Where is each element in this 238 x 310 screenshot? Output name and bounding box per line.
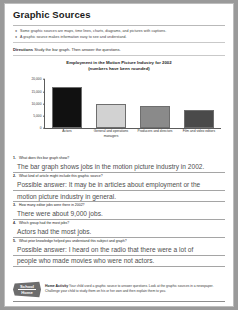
bar-column bbox=[136, 79, 175, 128]
bullet-list: ● Some graphic sources are maps, time li… bbox=[15, 28, 225, 40]
home-activity-body: Your child used a graphic source to answ… bbox=[45, 284, 213, 293]
x-tick-label: Film and video editors bbox=[180, 129, 219, 133]
chart-plot-area: 20,00015,00010,0005,0000 ActorsGeneral a… bbox=[13, 75, 225, 153]
answer-line[interactable]: motion picture industry in general. bbox=[13, 192, 225, 203]
answer-line[interactable]: Possible answer: It may be in articles a… bbox=[13, 180, 225, 191]
home-activity-label: Home Activity bbox=[45, 284, 68, 288]
chart-bar bbox=[96, 104, 126, 129]
school-home-logo-icon: School Home bbox=[13, 281, 41, 298]
question-text: What does this bar graph show? bbox=[19, 156, 225, 161]
bar-chart: Employment in the Motion Picture Industr… bbox=[13, 60, 225, 153]
question-block: 4.Which group had the most jobs?Actors h… bbox=[13, 221, 225, 238]
bullet-text: A graphic source makes information easy … bbox=[20, 34, 127, 40]
directions-divider bbox=[13, 55, 225, 56]
answer-line[interactable]: people who made movies who were not acto… bbox=[13, 256, 225, 267]
question-prompt: 5.What prior knowledge helped you unders… bbox=[13, 239, 225, 244]
chart-subtitle: (numbers have been rounded) bbox=[13, 66, 225, 72]
x-tick-label: General and operations managers bbox=[92, 129, 131, 137]
question-prompt: 3.How many editor jobs were there in 200… bbox=[13, 203, 225, 208]
chart-bar bbox=[140, 106, 170, 128]
header-divider bbox=[13, 25, 225, 26]
question-block: 1.What does this bar graph show?The bar … bbox=[13, 156, 225, 173]
question-block: 3.How many editor jobs were there in 200… bbox=[13, 203, 225, 220]
page-title: Graphic Sources bbox=[13, 9, 225, 20]
question-text: What kind of article might include this … bbox=[19, 174, 225, 179]
x-axis-labels: ActorsGeneral and operations managersPro… bbox=[45, 128, 221, 154]
x-tick-label: Actors bbox=[48, 129, 87, 133]
chart-bar bbox=[184, 110, 214, 128]
answer-line[interactable]: Possible answer: I heard on the radio th… bbox=[13, 245, 225, 256]
bar-column bbox=[48, 79, 87, 128]
answer-line[interactable]: There were about 9,000 jobs. bbox=[13, 209, 225, 220]
bullets-divider bbox=[13, 42, 225, 43]
x-tick-label: Producers and directors bbox=[136, 129, 175, 133]
question-text: Which group had the most jobs? bbox=[19, 221, 225, 226]
home-activity-text: Home Activity Your child used a graphic … bbox=[45, 281, 225, 294]
question-prompt: 4.Which group had the most jobs? bbox=[13, 221, 225, 226]
logo-line-2: Home bbox=[13, 290, 41, 295]
footer-divider bbox=[13, 301, 225, 302]
worksheet-page: Graphic Sources ● Some graphic sources a… bbox=[4, 3, 234, 307]
questions-list: 1.What does this bar graph show?The bar … bbox=[13, 156, 225, 267]
bar-column bbox=[92, 79, 131, 128]
question-text: How many editor jobs were there in 2002? bbox=[19, 203, 225, 208]
chart-bar bbox=[52, 87, 82, 129]
question-prompt: 1.What does this bar graph show? bbox=[13, 156, 225, 161]
question-block: 5.What prior knowledge helped you unders… bbox=[13, 239, 225, 267]
directions-text: Study the bar graph. Then answer the que… bbox=[34, 47, 120, 52]
list-item: ● A graphic source makes information eas… bbox=[15, 34, 225, 40]
question-block: 2.What kind of article might include thi… bbox=[13, 174, 225, 202]
directions-label: Directions bbox=[13, 47, 33, 52]
footer: School Home Home Activity Your child use… bbox=[5, 281, 233, 298]
answer-line[interactable]: Actors had the most jobs. bbox=[13, 227, 225, 238]
answer-line[interactable]: The bar graph shows jobs in the motion p… bbox=[13, 162, 225, 173]
page-header: Graphic Sources bbox=[5, 4, 233, 22]
question-prompt: 2.What kind of article might include thi… bbox=[13, 174, 225, 179]
bar-column bbox=[180, 79, 219, 128]
chart-bars bbox=[45, 79, 221, 128]
directions: Directions Study the bar graph. Then ans… bbox=[13, 46, 225, 53]
question-text: What prior knowledge helped you understa… bbox=[19, 239, 225, 244]
